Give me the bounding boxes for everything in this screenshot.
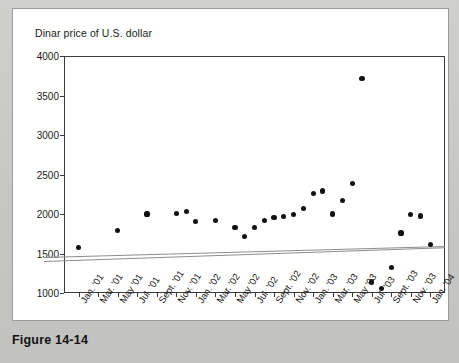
data-point xyxy=(271,215,276,220)
y-axis-tick-mark xyxy=(60,135,64,136)
plot-area xyxy=(64,56,445,293)
data-point xyxy=(340,198,345,203)
y-axis-tick-label: 3500 xyxy=(37,90,59,101)
figure-caption: Figure 14-14 xyxy=(12,333,88,347)
data-point xyxy=(301,206,306,211)
data-point xyxy=(242,234,247,239)
y-axis-tick-label: 2000 xyxy=(37,209,59,220)
data-point xyxy=(262,218,267,223)
y-axis-tick-label: 1000 xyxy=(37,288,59,299)
y-axis-tick-label: 3000 xyxy=(37,130,59,141)
data-point xyxy=(350,181,355,186)
data-point xyxy=(174,211,179,216)
y-axis-tick-mark xyxy=(60,254,64,255)
chart-title: Dinar price of U.S. dollar xyxy=(35,27,152,39)
figure-panel: Dinar price of U.S. dollar 1000150020002… xyxy=(12,8,449,321)
y-axis-tick-mark xyxy=(60,56,64,57)
y-axis-tick-mark xyxy=(60,214,64,215)
data-point xyxy=(330,211,335,216)
data-point xyxy=(252,225,257,230)
data-point xyxy=(418,213,423,218)
x-axis-label-row: Jan. '01Mar. '01May '01Jul. '01Sept. '01… xyxy=(64,297,456,343)
data-point xyxy=(193,219,198,224)
data-point xyxy=(144,211,149,216)
y-axis-tick-label: 2500 xyxy=(37,169,59,180)
y-axis-tick-mark xyxy=(60,293,64,294)
data-point xyxy=(232,225,237,230)
data-point xyxy=(398,230,403,235)
y-axis-tick-mark xyxy=(60,96,64,97)
data-point xyxy=(213,218,218,223)
data-points-layer xyxy=(64,56,445,293)
data-point xyxy=(428,242,433,247)
y-axis-tick-label: 4000 xyxy=(37,51,59,62)
data-point xyxy=(291,212,296,217)
data-point xyxy=(389,265,394,270)
data-point xyxy=(76,245,81,250)
y-axis-tick-mark xyxy=(60,175,64,176)
data-point xyxy=(359,76,364,81)
data-point xyxy=(184,209,189,214)
data-point xyxy=(408,212,413,217)
data-point xyxy=(311,191,316,196)
data-point xyxy=(115,228,120,233)
data-point xyxy=(320,188,325,193)
data-point xyxy=(281,214,286,219)
figure-screenshot: Dinar price of U.S. dollar 1000150020002… xyxy=(0,0,459,363)
